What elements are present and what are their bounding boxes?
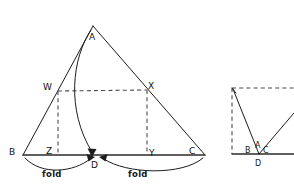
label-vertex-x: X (148, 81, 154, 91)
label-vertex-c: C (189, 146, 195, 156)
label-vertex-b: B (9, 147, 15, 157)
label-fold-right: fold (128, 169, 148, 179)
right-folded-diagram: B A C D (232, 88, 294, 168)
arc-fold-right (104, 158, 203, 171)
label-fold-left: fold (42, 169, 62, 179)
label-right-d: D (255, 159, 261, 168)
label-right-b: B (245, 146, 251, 155)
dashed-segment-wx (58, 90, 147, 91)
label-vertex-z: Z (46, 146, 52, 156)
diagram-svg: A B C D W X Y Z fold fold (0, 0, 294, 186)
label-vertex-y: Y (148, 148, 155, 158)
label-right-c: C (263, 146, 269, 155)
label-vertex-w: W (43, 82, 52, 92)
label-vertex-d: D (91, 160, 98, 170)
figure-canvas: A B C D W X Y Z fold fold (0, 0, 294, 186)
left-triangle-diagram: A B C D W X Y Z fold fold (9, 26, 205, 179)
label-right-a: A (255, 141, 261, 150)
label-vertex-a: A (89, 32, 96, 42)
